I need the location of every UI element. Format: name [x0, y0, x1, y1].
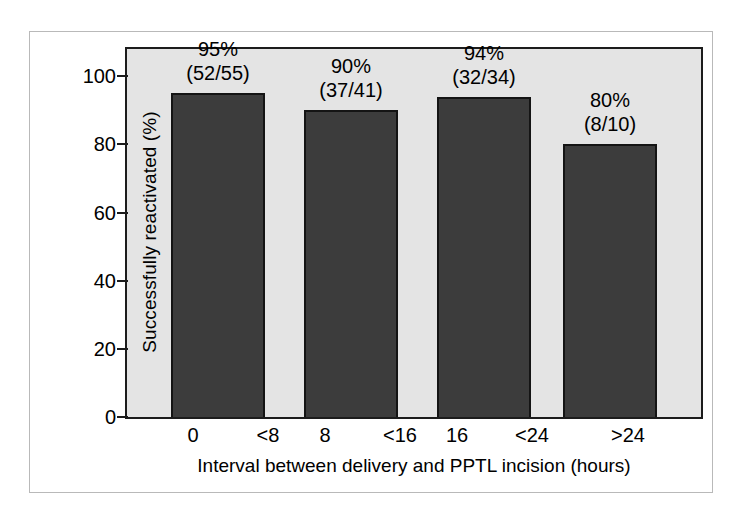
y-tick-mark: [117, 348, 128, 350]
y-axis-label: Successfully reactivated (%): [139, 67, 161, 397]
bar-data-label: 80%(8/10): [539, 88, 681, 136]
figure-container: Successfully reactivated (%) 02040608010…: [0, 0, 736, 522]
x-tick-label: <24: [499, 424, 565, 446]
y-tick-mark: [117, 75, 128, 77]
bar: [563, 144, 657, 417]
x-tick-label: >24: [595, 424, 661, 446]
y-tick-mark: [117, 280, 128, 282]
bar: [304, 110, 398, 417]
bar-fraction: (32/34): [413, 65, 555, 89]
x-tick-label: <16: [367, 424, 433, 446]
bar-percent: 80%: [539, 88, 681, 112]
bar-percent: 94%: [413, 41, 555, 65]
plot-area: Successfully reactivated (%) 02040608010…: [125, 47, 703, 419]
x-tick-label: <8: [235, 424, 301, 446]
y-tick-mark: [117, 416, 128, 418]
bar-percent: 95%: [147, 37, 289, 61]
plot-inner: Successfully reactivated (%) 02040608010…: [127, 49, 701, 417]
x-tick-label: 16: [427, 424, 487, 446]
bar-data-label: 90%(37/41): [280, 54, 422, 102]
y-tick-mark: [117, 212, 128, 214]
bar-fraction: (37/41): [280, 78, 422, 102]
x-axis-label: Interval between delivery and PPTL incis…: [125, 455, 703, 477]
bar-percent: 90%: [280, 54, 422, 78]
bar: [171, 93, 265, 417]
bar-fraction: (52/55): [147, 61, 289, 85]
bar-data-label: 94%(32/34): [413, 41, 555, 89]
x-tick-label: 8: [295, 424, 355, 446]
y-tick-mark: [117, 143, 128, 145]
bar: [437, 97, 531, 417]
x-tick-label: 0: [163, 424, 223, 446]
bar-fraction: (8/10): [539, 112, 681, 136]
bar-data-label: 95%(52/55): [147, 37, 289, 85]
